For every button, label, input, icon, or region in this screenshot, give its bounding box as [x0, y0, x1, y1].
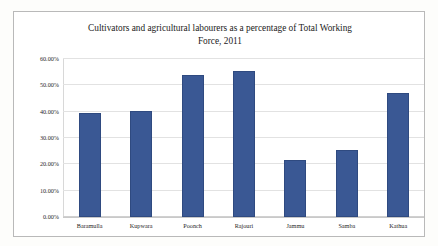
y-axis-tick-label: 30.00% — [40, 134, 59, 141]
bar-slot: Kathua — [373, 59, 424, 217]
x-axis-tick-label: Jammu — [286, 222, 304, 229]
chart-frame: Cultivators and agricultural labourers a… — [13, 11, 425, 237]
chart-title: Cultivators and agricultural labourers a… — [44, 22, 396, 48]
y-axis-tick-label: 10.00% — [40, 186, 59, 193]
chart-title-line-1: Cultivators and agricultural labourers a… — [44, 22, 396, 35]
bar-series: BaramullaKupwaraPoonchRajouriJammuSambaK… — [64, 59, 424, 217]
x-axis-tick-label: Baramulla — [77, 222, 103, 229]
x-axis-tick-label: Kupwara — [130, 222, 153, 229]
y-axis-tick-label: 20.00% — [40, 160, 59, 167]
bar-slot: Samba — [321, 59, 372, 217]
x-axis-tick-label: Samba — [338, 222, 355, 229]
bar — [387, 93, 409, 217]
y-axis-tick-label: 60.00% — [40, 55, 59, 62]
bar — [233, 71, 255, 217]
x-axis-tick-label: Poonch — [183, 222, 202, 229]
y-axis-tick-label: 40.00% — [40, 107, 59, 114]
bar — [284, 160, 306, 217]
bar-slot: Baramulla — [64, 59, 115, 217]
bar-slot: Kupwara — [115, 59, 166, 217]
bar-slot: Jammu — [270, 59, 321, 217]
bar — [130, 111, 152, 217]
y-axis-tick-label: 50.00% — [40, 81, 59, 88]
bar-slot: Rajouri — [218, 59, 269, 217]
y-axis-tick-label: 0.00% — [43, 213, 59, 220]
chart-title-line-2: Force, 2011 — [44, 35, 396, 48]
x-axis-tick-label: Kathua — [389, 222, 407, 229]
page-background: Cultivators and agricultural labourers a… — [0, 0, 438, 246]
x-axis-tick-label: Rajouri — [235, 222, 254, 229]
x-axis-line — [63, 217, 424, 218]
bar — [182, 75, 204, 217]
plot-area: 0.00%10.00%20.00%30.00%40.00%50.00%60.00… — [63, 59, 424, 217]
bar — [336, 150, 358, 217]
bar — [79, 113, 101, 217]
bar-slot: Poonch — [167, 59, 218, 217]
